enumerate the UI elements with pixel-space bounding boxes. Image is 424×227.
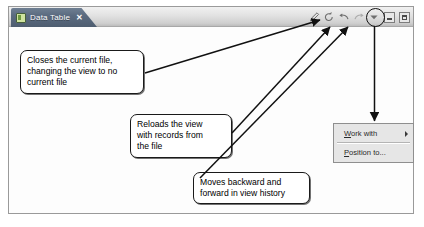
menu-item-position-to-label: Position to...	[344, 148, 408, 157]
view-dropdown-menu: Work with Position to...	[333, 123, 414, 163]
tab-strip: Data Table ✕	[9, 7, 413, 27]
close-icon[interactable]: ✕	[76, 14, 83, 22]
maximize-button[interactable]	[399, 12, 410, 23]
tab-data-table[interactable]: Data Table ✕	[11, 8, 97, 27]
refresh-icon[interactable]	[323, 10, 335, 24]
menu-item-position-to[interactable]: Position to...	[334, 145, 413, 160]
tab-label: Data Table	[30, 14, 70, 22]
back-arrow-icon[interactable]	[338, 10, 350, 24]
menu-separator	[337, 142, 410, 144]
menu-item-work-with-label: Work with	[344, 129, 399, 138]
menu-item-work-with[interactable]: Work with	[334, 126, 413, 141]
screenshot-canvas: Data Table ✕	[0, 0, 424, 227]
table-file-icon	[16, 13, 26, 23]
view-toolbar	[308, 9, 410, 25]
chevron-right-icon	[405, 131, 408, 137]
minimize-button[interactable]	[384, 12, 395, 23]
forward-arrow-icon[interactable]	[353, 10, 365, 24]
annotation-close-file: Closes the current file, changing the vi…	[20, 50, 144, 94]
edit-pencil-icon[interactable]	[308, 10, 320, 24]
view-menu-highlight-circle	[366, 8, 385, 27]
annotation-reload-view: Reloads the view with records from the f…	[130, 114, 232, 158]
annotation-view-history: Moves backward and forward in view histo…	[193, 172, 310, 204]
